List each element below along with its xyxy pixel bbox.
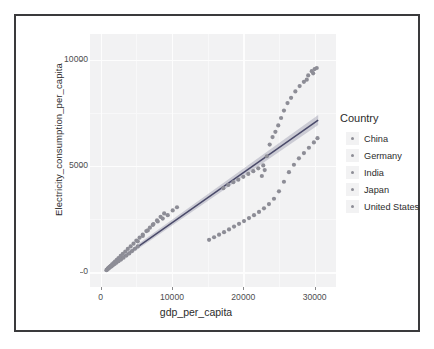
legend-dot-icon: [351, 154, 354, 157]
data-point: [307, 146, 311, 150]
data-point: [311, 71, 315, 75]
data-point: [305, 78, 309, 82]
data-point: [262, 206, 266, 210]
data-point: [260, 174, 264, 178]
legend-item[interactable]: China: [346, 130, 434, 147]
data-point: [207, 238, 211, 242]
legend-item[interactable]: India: [346, 164, 434, 181]
data-point: [236, 178, 240, 182]
legend-dot-icon: [351, 188, 354, 191]
x-tick-label: 10000: [147, 292, 197, 302]
data-point: [261, 163, 265, 167]
series-points: [104, 244, 140, 272]
data-point: [221, 186, 225, 190]
legend-dot-icon: [351, 171, 354, 174]
legend-item-label: China: [364, 134, 388, 144]
legend-title: Country: [340, 112, 434, 124]
legend-item-label: Japan: [364, 185, 389, 195]
y-tick-mark: [80, 272, 83, 273]
x-axis-tick-labels: 0100002000030000: [90, 287, 336, 307]
data-point: [293, 89, 297, 93]
chart-figure: Electricity_consumption_per_capita 05000…: [16, 16, 418, 330]
legend-item[interactable]: Japan: [346, 181, 434, 198]
data-point: [267, 202, 271, 206]
data-point: [246, 172, 250, 176]
data-point: [268, 142, 272, 146]
data-point: [247, 216, 251, 220]
data-point: [146, 228, 150, 232]
x-tick-mark: [101, 287, 102, 290]
data-point: [315, 66, 319, 70]
data-point: [256, 166, 260, 170]
y-tick-label: 0: [42, 266, 88, 276]
data-point: [298, 84, 302, 88]
data-point: [136, 244, 140, 248]
legend-key-swatch: [346, 132, 359, 145]
data-point: [175, 205, 179, 209]
data-point: [306, 73, 310, 77]
x-tick-mark: [315, 287, 316, 290]
data-point: [279, 116, 283, 120]
data-point: [241, 175, 245, 179]
legend-dot-icon: [351, 205, 354, 208]
data-point: [289, 96, 293, 100]
x-tick-label: 30000: [290, 292, 340, 302]
y-tick-mark: [80, 60, 83, 61]
data-point: [251, 169, 255, 173]
data-point: [226, 183, 230, 187]
data-point: [232, 225, 236, 229]
figure-border-frame: Electricity_consumption_per_capita 05000…: [14, 14, 420, 332]
y-tick-label: 10000: [42, 54, 88, 64]
legend-item[interactable]: Germany: [346, 147, 434, 164]
data-point: [285, 101, 289, 105]
data-point: [265, 154, 269, 158]
data-point: [212, 235, 216, 239]
data-point: [217, 233, 221, 237]
data-point: [287, 170, 291, 174]
legend-dot-icon: [351, 137, 354, 140]
data-point: [263, 168, 267, 172]
x-tick-label: 0: [76, 292, 126, 302]
data-point: [273, 130, 277, 134]
data-point: [315, 136, 319, 140]
plot-panel: [90, 34, 336, 287]
data-point: [272, 197, 276, 201]
data-point: [231, 180, 235, 184]
data-point: [252, 213, 256, 217]
data-point: [222, 230, 226, 234]
x-tick-mark: [243, 287, 244, 290]
legend-items: ChinaGermanyIndiaJapanUnited States: [340, 130, 434, 215]
data-point: [270, 135, 274, 139]
data-point: [312, 140, 316, 144]
data-point: [151, 223, 155, 227]
data-point: [257, 210, 261, 214]
data-point: [282, 180, 286, 184]
legend-item-label: United States: [364, 202, 419, 212]
data-point: [237, 222, 241, 226]
data-point: [227, 227, 231, 231]
data-point: [166, 213, 170, 217]
data-point: [292, 163, 296, 167]
legend-item-label: India: [364, 168, 384, 178]
data-point: [242, 219, 246, 223]
legend-item[interactable]: United States: [346, 198, 434, 215]
legend-key-swatch: [346, 166, 359, 179]
data-point: [276, 123, 280, 127]
data-point: [171, 208, 175, 212]
legend-item-label: Germany: [364, 151, 402, 161]
data-point: [297, 156, 301, 160]
legend-key-swatch: [346, 149, 359, 162]
data-point: [156, 219, 160, 223]
data-point: [282, 108, 286, 112]
y-tick-label: 5000: [42, 160, 88, 170]
y-tick-mark: [80, 166, 83, 167]
x-tick-mark: [172, 287, 173, 290]
x-axis-title: gdp_per_capita: [76, 306, 316, 318]
data-point: [277, 189, 281, 193]
data-point: [162, 211, 166, 215]
y-axis-tick-labels: 0500010000: [30, 16, 88, 286]
data-point: [141, 234, 145, 238]
x-tick-label: 20000: [218, 292, 268, 302]
legend-key-swatch: [346, 200, 359, 213]
legend: Country ChinaGermanyIndiaJapanUnited Sta…: [340, 112, 434, 215]
